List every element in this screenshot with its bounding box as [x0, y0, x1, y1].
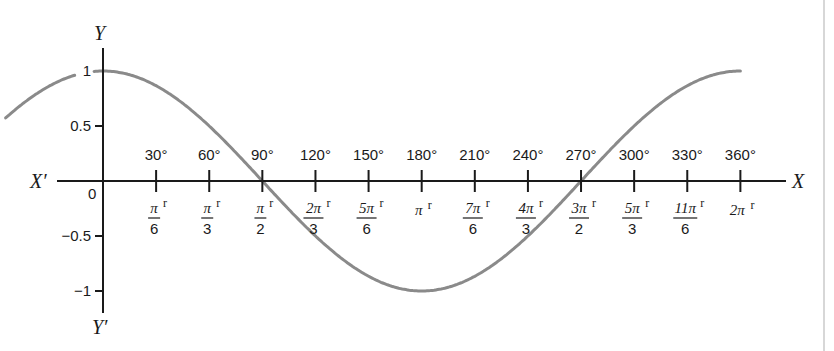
y-axis-label: Y	[94, 22, 107, 44]
degree-label: 240°	[512, 146, 543, 163]
radian-superscript: r	[216, 196, 220, 210]
radian-label: π	[415, 202, 423, 218]
x-axis-negative-label: X′	[29, 170, 47, 192]
radian-numerator: 4π	[518, 200, 534, 216]
x-axis-label: X	[791, 170, 805, 192]
radian-denominator: 3	[203, 220, 211, 237]
x-tick-300: 300°5π3r	[619, 146, 650, 237]
y-tick-label: 0.5	[70, 117, 91, 134]
x-tick-30: 30°π6r	[145, 146, 168, 237]
radian-numerator: π	[203, 200, 211, 216]
x-tick-150: 150°5π6r	[353, 146, 384, 237]
y-tick-label: 1	[83, 62, 91, 79]
y-tick-label: −1	[74, 282, 91, 299]
radian-superscript: r	[163, 196, 167, 210]
radian-superscript: r	[269, 196, 273, 210]
degree-label: 150°	[353, 146, 384, 163]
degree-label: 300°	[619, 146, 650, 163]
radian-denominator: 3	[628, 220, 636, 237]
radian-denominator: 3	[522, 220, 530, 237]
radian-numerator: 2π	[306, 200, 322, 216]
radian-superscript: r	[326, 196, 330, 210]
origin-label: 0	[88, 185, 96, 202]
radian-superscript: r	[486, 196, 490, 210]
x-tick-240: 240°4π3r	[512, 146, 543, 237]
radian-superscript: r	[539, 196, 543, 210]
x-tick-210: 210°7π6r	[459, 146, 490, 237]
radian-numerator: π	[150, 200, 158, 216]
x-tick-120: 120°2π3r	[300, 146, 331, 237]
y-tick-label: −0.5	[61, 227, 91, 244]
degree-label: 60°	[198, 146, 221, 163]
radian-denominator: 6	[362, 220, 370, 237]
radian-denominator: 6	[681, 220, 689, 237]
x-axis-ticks: 30°π6r60°π3r90°π2r120°2π3r150°5π6r180°πr…	[145, 146, 756, 237]
radian-superscript: r	[645, 196, 649, 210]
degree-label: 90°	[251, 146, 274, 163]
degree-label: 360°	[725, 146, 756, 163]
radian-numerator: 11π	[675, 200, 697, 216]
degree-label: 270°	[566, 146, 597, 163]
radian-denominator: 2	[256, 220, 264, 237]
x-tick-330: 330°11π6r	[672, 146, 705, 237]
radian-denominator: 6	[469, 220, 477, 237]
cosine-graph: X X′ Y Y′ 0 10.5−0.5−1 30°π6r60°π3r90°π2…	[0, 0, 834, 351]
radian-numerator: 5π	[625, 200, 641, 216]
radian-superscript: r	[750, 198, 754, 212]
radian-denominator: 2	[575, 220, 583, 237]
radian-numerator: π	[257, 200, 265, 216]
radian-denominator: 6	[150, 220, 158, 237]
degree-label: 120°	[300, 146, 331, 163]
degree-label: 210°	[459, 146, 490, 163]
radian-superscript: r	[380, 196, 384, 210]
radian-superscript: r	[428, 198, 432, 212]
radian-label: 2π	[730, 202, 746, 218]
radian-superscript: r	[592, 196, 596, 210]
degree-label: 330°	[672, 146, 703, 163]
x-tick-60: 60°π3r	[198, 146, 221, 237]
radian-superscript: r	[700, 196, 704, 210]
cosine-curve-segment	[6, 75, 75, 118]
degree-label: 30°	[145, 146, 168, 163]
radian-numerator: 7π	[465, 200, 481, 216]
y-axis-negative-label: Y′	[92, 316, 108, 338]
radian-numerator: 5π	[359, 200, 375, 216]
degree-label: 180°	[406, 146, 437, 163]
radian-numerator: 3π	[571, 200, 588, 216]
radian-denominator: 3	[309, 220, 317, 237]
